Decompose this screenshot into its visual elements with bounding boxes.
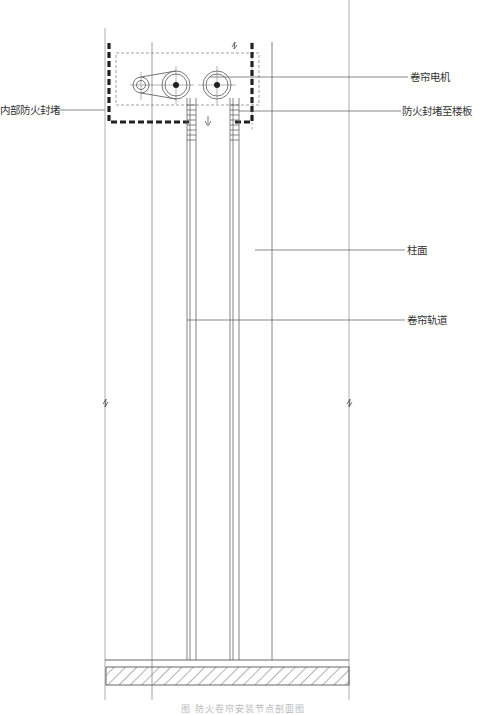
- label-motor: 卷帘电机: [410, 71, 450, 83]
- break-symbols: [103, 42, 352, 407]
- leader-lines: [60, 77, 408, 320]
- label-column-face: 柱面: [407, 244, 427, 256]
- label-shutter-track: 卷帘轨道: [407, 314, 447, 326]
- label-fire-seal-to-slab: 防火封堵至楼板: [402, 105, 472, 117]
- motor-pulleys: [130, 66, 236, 104]
- down-arrow-icon: [205, 116, 211, 126]
- track-hatches: [187, 105, 239, 140]
- shutter-curtains: [187, 42, 272, 660]
- floor-slab: [105, 660, 349, 685]
- figure-caption: 图 防火卷帘安装节点剖面图: [0, 702, 486, 715]
- motor-housing: [116, 42, 259, 700]
- label-inner-fire-seal: 内部防火封堵: [0, 104, 60, 116]
